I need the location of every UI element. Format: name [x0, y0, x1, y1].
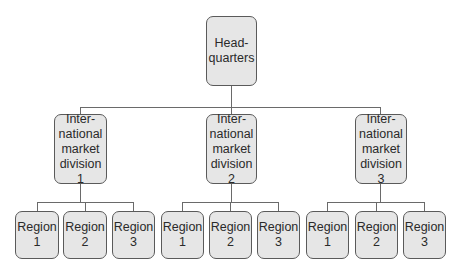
connector-div1-r3: [133, 202, 134, 211]
connector-hq-down: [231, 86, 232, 107]
division-node-3: Inter- national market division 3: [355, 114, 407, 184]
region-node-1-3: Region 3: [112, 211, 155, 259]
connector-div3-down: [380, 184, 381, 202]
region-node-2-1: Region 1: [161, 211, 204, 259]
connector-div2-down: [231, 184, 232, 202]
connector-div1-r1: [37, 202, 38, 211]
connector-div3-r1: [327, 202, 328, 211]
region-label: Region 1: [163, 220, 203, 250]
region-label: Region 2: [357, 220, 397, 250]
region-label: Region 3: [259, 220, 299, 250]
region-label: Region 3: [405, 220, 445, 250]
division-node-2: Inter- national market division 2: [206, 114, 257, 184]
division-label: Inter- national market division 3: [356, 112, 406, 187]
region-label: Region 2: [65, 220, 105, 250]
region-node-2-3: Region 3: [257, 211, 300, 259]
headquarters-label: Head- quarters: [209, 36, 255, 66]
division-label: Inter- national market division 2: [207, 112, 256, 187]
region-node-3-1: Region 1: [306, 211, 349, 259]
division-node-1: Inter- national market division 1: [54, 114, 107, 184]
region-label: Region 1: [17, 220, 57, 250]
connector-div2-r2: [230, 202, 231, 211]
region-node-3-3: Region 3: [403, 211, 446, 259]
region-node-2-2: Region 2: [209, 211, 252, 259]
headquarters-node: Head- quarters: [206, 16, 257, 86]
connector-div2-r1: [182, 202, 183, 211]
region-label: Region 3: [114, 220, 154, 250]
connector-div3-r3: [424, 202, 425, 211]
region-node-1-2: Region 2: [63, 211, 107, 259]
region-label: Region 1: [308, 220, 348, 250]
region-label: Region 2: [211, 220, 251, 250]
connector-div2-r3: [278, 202, 279, 211]
connector-div1-down: [80, 184, 81, 202]
region-node-1-1: Region 1: [15, 211, 59, 259]
connector-div1-r2: [85, 202, 86, 211]
connector-div3-r2: [376, 202, 377, 211]
region-node-3-2: Region 2: [355, 211, 398, 259]
division-label: Inter- national market division 1: [55, 112, 106, 187]
